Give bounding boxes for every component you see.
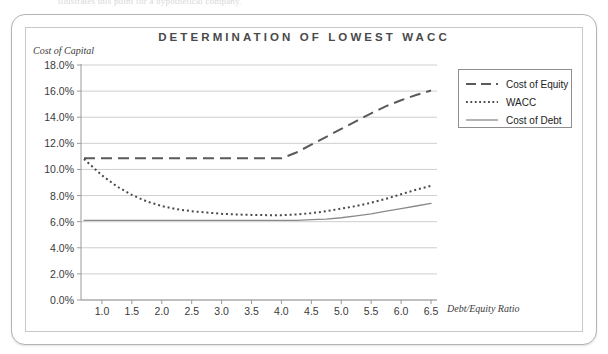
chart-legend: Cost of Equity WACC Cost of Debt <box>458 69 572 128</box>
legend-label-cost-of-equity: Cost of Equity <box>506 79 568 90</box>
plot-canvas <box>0 0 608 354</box>
legend-swatch-dashed-icon <box>465 79 499 89</box>
legend-label-wacc: WACC <box>506 97 536 108</box>
legend-item-cost-of-debt: Cost of Debt <box>465 111 565 129</box>
series-line-wacc <box>84 159 431 215</box>
wacc-chart: DETERMINATION OF LOWEST WACC Cost of Cap… <box>0 0 608 354</box>
legend-item-wacc: WACC <box>465 93 565 111</box>
legend-label-cost-of-debt: Cost of Debt <box>506 115 562 126</box>
legend-item-cost-of-equity: Cost of Equity <box>465 75 565 93</box>
legend-swatch-dotted-icon <box>465 97 499 107</box>
series-line-cost-of-equity <box>84 90 431 158</box>
legend-swatch-solid-icon <box>465 115 499 125</box>
series-line-cost-of-debt <box>84 203 431 220</box>
